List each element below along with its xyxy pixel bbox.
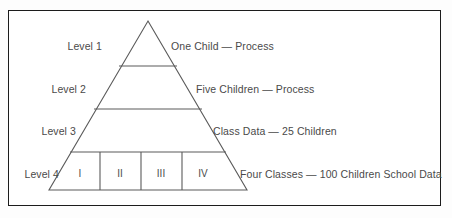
- level-4-left-label: Level 4: [0, 169, 59, 180]
- class-cell-1-label: I: [79, 169, 82, 179]
- level-2-left-label: Level 2: [24, 84, 86, 95]
- level-3-right-label: Class Data — 25 Children: [213, 126, 337, 137]
- level-1-right-label: One Child — Process: [171, 41, 274, 52]
- figure-root: Level 1 Level 2 Level 3 Level 4 One Chil…: [0, 0, 452, 218]
- pyramid-drawing: [0, 0, 452, 218]
- level-2-right-label: Five Children — Process: [196, 84, 314, 95]
- level-3-left-label: Level 3: [14, 126, 76, 137]
- level-4-right-label: Four Classes — 100 Children School Data: [240, 169, 442, 180]
- class-cell-3-label: III: [157, 169, 165, 179]
- level-1-left-label: Level 1: [40, 41, 102, 52]
- class-cell-2-label: II: [117, 169, 123, 179]
- class-cell-4-label: IV: [198, 169, 207, 179]
